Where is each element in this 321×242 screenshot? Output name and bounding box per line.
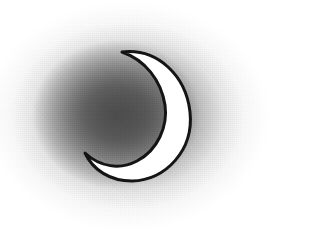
crescent-moon-path xyxy=(85,52,190,181)
artboard xyxy=(0,0,321,242)
crescent-moon-icon xyxy=(0,0,321,242)
